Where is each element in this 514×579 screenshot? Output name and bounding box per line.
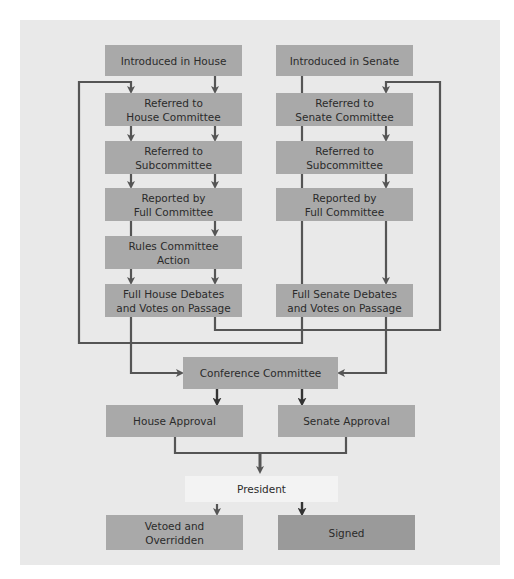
vetoed-and-overridden-box: Vetoed and Overridden xyxy=(106,515,243,550)
rules-committee-action-box: Rules Committee Action xyxy=(105,236,242,269)
full-senate-debates-box: Full Senate Debates and Votes on Passage xyxy=(276,284,413,317)
signed-box: Signed xyxy=(278,515,415,550)
senate-approval-box: Senate Approval xyxy=(278,405,415,437)
house-approval-box: House Approval xyxy=(106,405,243,437)
senate-referred-to-subcommittee-box: Referred to Subcommittee xyxy=(276,141,413,174)
referred-to-senate-committee-box: Referred to Senate Committee xyxy=(276,93,413,126)
full-house-debates-box: Full House Debates and Votes on Passage xyxy=(105,284,242,317)
senate-reported-by-full-committee-box: Reported by Full Committee xyxy=(276,188,413,221)
conference-committee-box: Conference Committee xyxy=(183,357,338,389)
house-referred-to-subcommittee-box: Referred to Subcommittee xyxy=(105,141,242,174)
president-box: President xyxy=(185,476,338,502)
introduced-in-senate-box: Introduced in Senate xyxy=(276,45,413,76)
house-reported-by-full-committee-box: Reported by Full Committee xyxy=(105,188,242,221)
introduced-in-house-box: Introduced in House xyxy=(105,45,242,76)
referred-to-house-committee-box: Referred to House Committee xyxy=(105,93,242,126)
